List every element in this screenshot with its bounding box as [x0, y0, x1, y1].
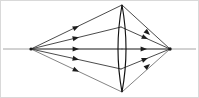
object-point-marker [29, 47, 32, 50]
image-point-marker [168, 47, 171, 50]
ray-diagram-canvas [0, 0, 199, 98]
optics-ray-diagram-figure [0, 0, 199, 98]
